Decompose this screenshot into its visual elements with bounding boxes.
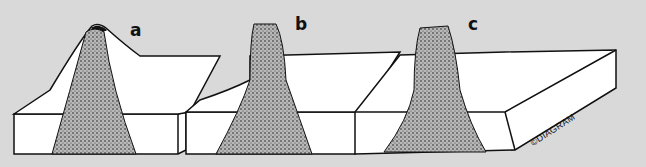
panel-a-label: a <box>130 20 141 40</box>
diagram-canvas <box>0 0 646 167</box>
panel-c-label: c <box>468 14 478 34</box>
panel-b-label: b <box>295 14 307 34</box>
